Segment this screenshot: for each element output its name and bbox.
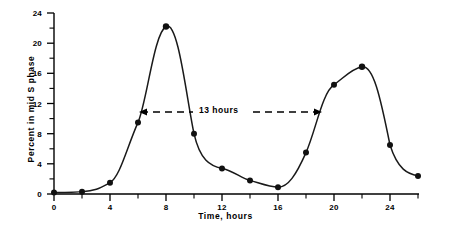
chart-figure: 0 4 8 12 16 20 24 0 4 8 12 16 20 24 Perc… bbox=[0, 0, 451, 230]
data-point bbox=[275, 184, 281, 190]
data-point bbox=[387, 142, 393, 148]
data-point bbox=[163, 23, 169, 29]
y-tick-label-24: 24 bbox=[16, 9, 42, 18]
data-point bbox=[303, 150, 309, 156]
y-axis-major-ticks bbox=[47, 13, 54, 194]
y-tick-label-0: 0 bbox=[16, 190, 42, 199]
data-point bbox=[51, 190, 57, 196]
data-point bbox=[247, 177, 253, 183]
data-point bbox=[359, 64, 365, 70]
data-point bbox=[415, 173, 421, 179]
span-annotation-label: 13 hours bbox=[196, 105, 241, 115]
x-axis-major-ticks bbox=[54, 194, 390, 201]
x-axis-title: Time, hours bbox=[0, 211, 451, 221]
data-point bbox=[331, 82, 337, 88]
data-point bbox=[79, 189, 85, 195]
y-axis-title: Percent in mid S phase bbox=[26, 34, 36, 184]
chart-plot-area bbox=[0, 0, 451, 230]
data-point bbox=[107, 180, 113, 186]
data-point bbox=[191, 131, 197, 137]
data-point bbox=[135, 119, 141, 125]
data-point bbox=[219, 165, 225, 171]
